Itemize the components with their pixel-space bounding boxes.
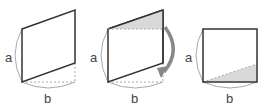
- arc-a: [15, 29, 22, 82]
- figure-parallelogram: a b: [5, 10, 75, 106]
- arc-a: [196, 29, 203, 82]
- curved-arrow-shaft: [164, 27, 173, 72]
- label-a: a: [5, 50, 13, 65]
- label-b: b: [131, 91, 138, 106]
- arc-b: [203, 82, 257, 88]
- diagram-canvas: a b a b a b: [0, 0, 265, 109]
- arc-a: [101, 29, 108, 82]
- figure-rectangle-result: a b: [185, 29, 257, 106]
- parallelogram-shape: [22, 10, 75, 82]
- arc-b: [22, 82, 75, 88]
- label-a: a: [90, 50, 98, 65]
- label-b: b: [44, 91, 51, 106]
- arc-b: [108, 82, 163, 88]
- figure-parallelogram-cut: a b: [90, 10, 173, 106]
- label-b: b: [226, 91, 233, 106]
- label-a: a: [185, 50, 193, 65]
